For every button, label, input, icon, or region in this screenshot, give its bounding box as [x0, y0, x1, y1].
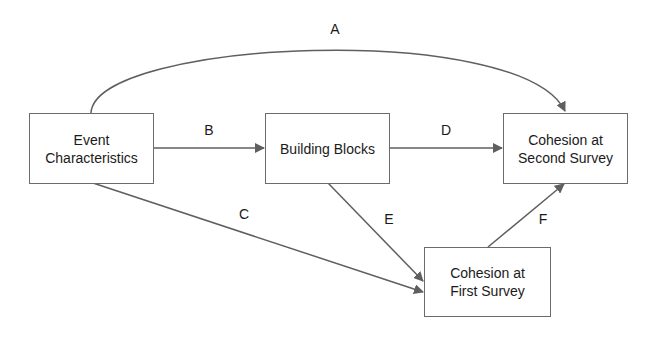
node-event-characteristics: EventCharacteristics [29, 113, 154, 184]
edge-C [93, 183, 423, 292]
edge-label-e: E [384, 211, 393, 227]
node-cohesion-first-survey: Cohesion atFirst Survey [424, 247, 551, 317]
edge-label-b: B [204, 122, 213, 138]
node-label: Characteristics [45, 150, 138, 166]
edge-label-d: D [441, 122, 451, 138]
edge-label-a: A [330, 21, 339, 37]
edge-A [91, 50, 565, 113]
node-label: Building Blocks [280, 140, 375, 158]
edge-label-f: F [539, 211, 548, 227]
node-label: Event [74, 132, 110, 148]
node-label: Cohesion at [528, 132, 603, 148]
node-label: Cohesion at [450, 265, 525, 281]
node-cohesion-second-survey: Cohesion atSecond Survey [503, 113, 628, 184]
node-label: Second Survey [518, 150, 613, 166]
node-label: First Survey [450, 283, 525, 299]
edge-E [328, 183, 423, 281]
node-building-blocks: Building Blocks [265, 113, 390, 184]
edge-F [488, 184, 564, 247]
edge-label-c: C [239, 206, 249, 222]
